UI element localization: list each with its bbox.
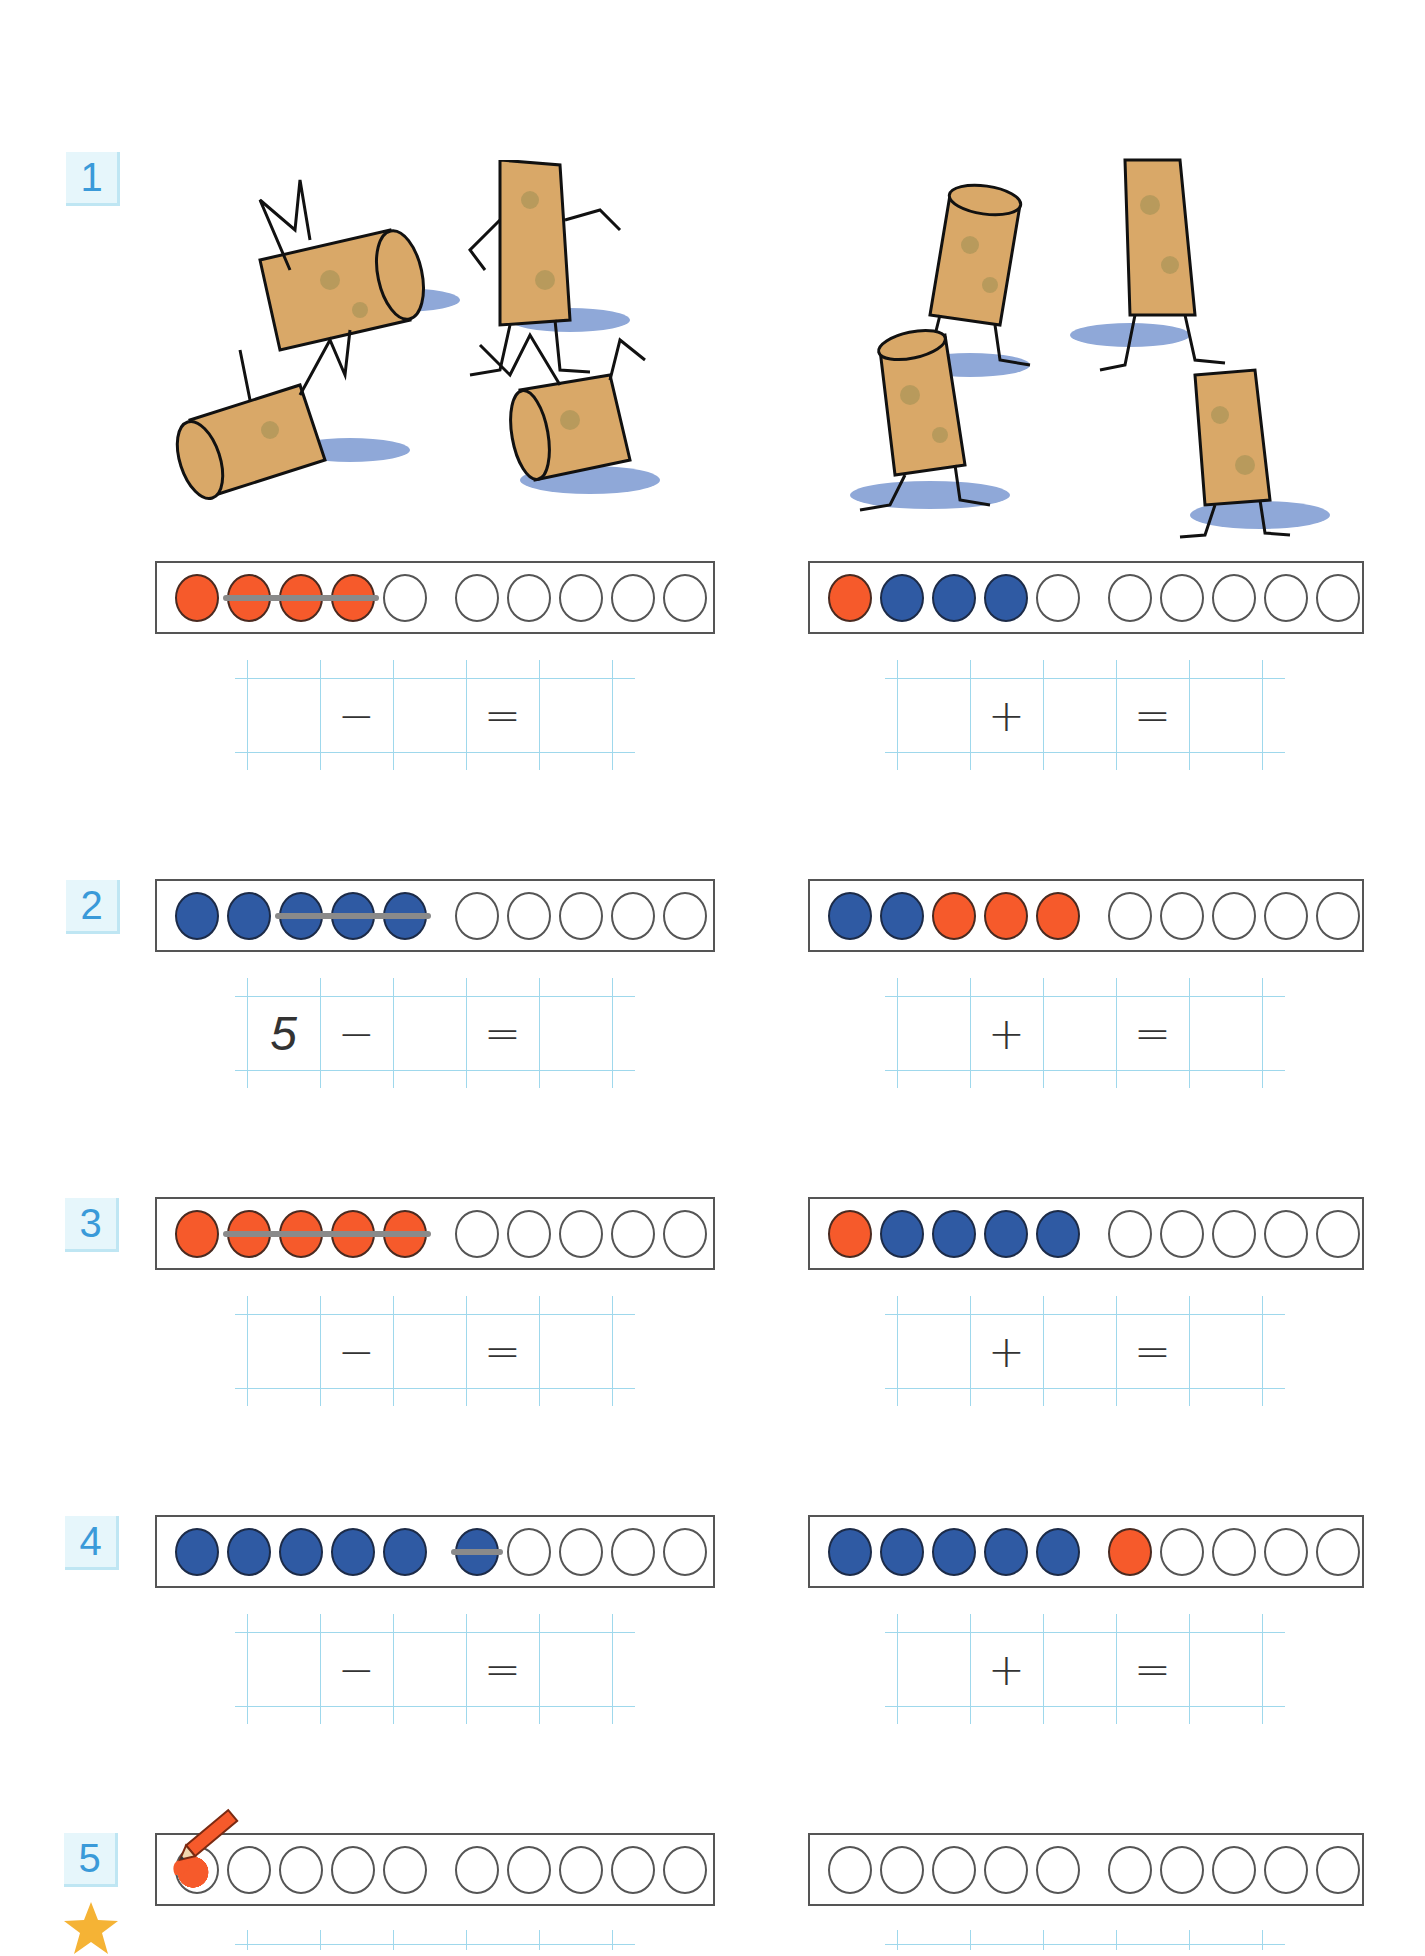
- counter-empty[interactable]: [663, 1528, 707, 1576]
- counter-empty[interactable]: [1264, 892, 1308, 940]
- answer-box[interactable]: [1189, 1632, 1262, 1706]
- grid-line: [885, 1706, 1285, 1707]
- counter-empty[interactable]: [663, 1846, 707, 1894]
- counter-empty[interactable]: [1212, 1846, 1256, 1894]
- answer-box[interactable]: [1043, 1314, 1116, 1388]
- counter-empty[interactable]: [507, 892, 551, 940]
- counter-empty[interactable]: [663, 1210, 707, 1258]
- counter-empty[interactable]: [611, 574, 655, 622]
- counter-empty[interactable]: [507, 1210, 551, 1258]
- counter-empty[interactable]: [1316, 574, 1360, 622]
- answer-box[interactable]: [247, 678, 320, 752]
- answer-box[interactable]: [1189, 1314, 1262, 1388]
- operator-sign: =: [1116, 678, 1189, 752]
- counter-blue: [279, 1528, 323, 1576]
- counter-empty[interactable]: [1316, 892, 1360, 940]
- counter-blue: [175, 1528, 219, 1576]
- counter-empty[interactable]: [1264, 1210, 1308, 1258]
- answer-box[interactable]: [247, 1314, 320, 1388]
- counter-blue: [227, 1528, 271, 1576]
- counter-empty[interactable]: [559, 1528, 603, 1576]
- counter-empty[interactable]: [663, 892, 707, 940]
- ten-frame-3-left: [155, 1197, 715, 1270]
- counter-empty[interactable]: [455, 892, 499, 940]
- ten-frame-2-right: [808, 879, 1364, 952]
- counter-blue: [984, 574, 1028, 622]
- counter-empty[interactable]: [559, 1210, 603, 1258]
- counter-empty[interactable]: [507, 1528, 551, 1576]
- counter-empty[interactable]: [279, 1846, 323, 1894]
- counter-empty[interactable]: [1036, 574, 1080, 622]
- counter-empty[interactable]: [1160, 1846, 1204, 1894]
- answer-box[interactable]: [539, 678, 612, 752]
- answer-box[interactable]: [393, 678, 466, 752]
- counter-empty[interactable]: [1212, 1210, 1256, 1258]
- counter-empty[interactable]: [559, 892, 603, 940]
- counter-empty[interactable]: [455, 1846, 499, 1894]
- counter-empty[interactable]: [1264, 574, 1308, 622]
- counter-empty[interactable]: [1108, 574, 1152, 622]
- grid-line: [612, 660, 613, 770]
- counter-empty[interactable]: [984, 1846, 1028, 1894]
- counter-empty[interactable]: [1108, 892, 1152, 940]
- counter-empty[interactable]: [1316, 1210, 1360, 1258]
- counter-empty[interactable]: [455, 574, 499, 622]
- counter-empty[interactable]: [383, 1846, 427, 1894]
- counter-blue: [828, 1528, 872, 1576]
- ten-frame-1-right: [808, 561, 1364, 634]
- counter-empty[interactable]: [1160, 574, 1204, 622]
- counter-empty[interactable]: [1036, 1846, 1080, 1894]
- counter-empty[interactable]: [507, 574, 551, 622]
- counter-empty[interactable]: [455, 1210, 499, 1258]
- counter-empty[interactable]: [507, 1846, 551, 1894]
- counter-empty[interactable]: [1160, 1210, 1204, 1258]
- answer-box[interactable]: [539, 1314, 612, 1388]
- counter-empty[interactable]: [663, 574, 707, 622]
- counter-empty[interactable]: [331, 1846, 375, 1894]
- answer-box[interactable]: [393, 1632, 466, 1706]
- answer-box[interactable]: [539, 996, 612, 1070]
- answer-box[interactable]: [247, 1632, 320, 1706]
- answer-box[interactable]: [897, 678, 970, 752]
- counter-empty[interactable]: [1212, 1528, 1256, 1576]
- counter-empty[interactable]: [611, 892, 655, 940]
- counter-empty[interactable]: [1108, 1846, 1152, 1894]
- counter-empty[interactable]: [611, 1846, 655, 1894]
- counter-empty[interactable]: [1160, 892, 1204, 940]
- counter-empty[interactable]: [1212, 574, 1256, 622]
- counter-empty[interactable]: [559, 574, 603, 622]
- counter-empty[interactable]: [880, 1846, 924, 1894]
- counter-empty[interactable]: [611, 1210, 655, 1258]
- counter-empty[interactable]: [559, 1846, 603, 1894]
- counter-empty[interactable]: [1108, 1210, 1152, 1258]
- answer-box[interactable]: [897, 1632, 970, 1706]
- answer-box[interactable]: [1043, 996, 1116, 1070]
- grid-line: [1116, 1930, 1117, 1950]
- counter-empty[interactable]: [611, 1528, 655, 1576]
- answer-box[interactable]: [1043, 678, 1116, 752]
- answer-box[interactable]: [539, 1632, 612, 1706]
- counter-empty[interactable]: [828, 1846, 872, 1894]
- ten-frame-2-left: [155, 879, 715, 952]
- counter-empty[interactable]: [1316, 1846, 1360, 1894]
- answer-box[interactable]: [897, 1314, 970, 1388]
- answer-box[interactable]: [1189, 996, 1262, 1070]
- ten-frame-1-left: [155, 561, 715, 634]
- counter-empty[interactable]: [383, 574, 427, 622]
- grid-line: [235, 752, 635, 753]
- counter-empty[interactable]: [1264, 1846, 1308, 1894]
- answer-box[interactable]: [1189, 678, 1262, 752]
- grid-line: [1262, 1930, 1263, 1950]
- counter-empty[interactable]: [1316, 1528, 1360, 1576]
- counter-empty[interactable]: [1264, 1528, 1308, 1576]
- answer-box[interactable]: [393, 996, 466, 1070]
- answer-box[interactable]: [393, 1314, 466, 1388]
- counter-empty[interactable]: [1160, 1528, 1204, 1576]
- grid-line: [885, 1070, 1285, 1071]
- counter-empty[interactable]: [932, 1846, 976, 1894]
- equation-grid-5-left: [235, 1930, 635, 1950]
- counter-empty[interactable]: [1212, 892, 1256, 940]
- answer-box[interactable]: [1043, 1632, 1116, 1706]
- operator-sign: +: [970, 996, 1043, 1070]
- answer-box[interactable]: [897, 996, 970, 1070]
